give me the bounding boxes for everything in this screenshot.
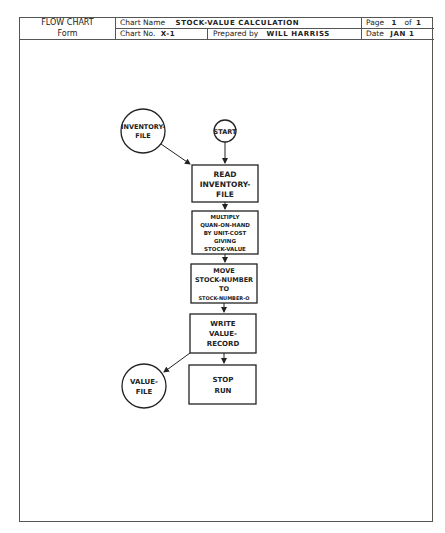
edge-write-to-value-file: [164, 353, 190, 372]
value-file-node: [122, 364, 166, 408]
inventory-file-label: INVENTORY-FILE: [121, 123, 165, 140]
value-file-label: VALUE-FILE: [130, 378, 158, 396]
multiply-label: MULTIPLYQUAN-ON-HANDBY UNIT-COSTGIVINGST…: [200, 214, 250, 252]
move-label: MOVESTOCK-NUMBERTOSTOCK-NUMBER-O: [195, 267, 253, 301]
read-inventory-label: READINVENTORY-FILE: [200, 170, 251, 199]
flowchart-diagram: INVENTORY-FILE START READINVENTORY-FILE …: [0, 0, 445, 533]
stop-run-node: [189, 365, 256, 404]
start-label: START: [214, 128, 237, 136]
write-value-record-label: WRITEVALUE-RECORD: [207, 320, 240, 348]
stop-run-label: STOPRUN: [213, 376, 234, 395]
edge-inventory-to-read: [161, 144, 190, 164]
inventory-file-node: [121, 109, 165, 153]
